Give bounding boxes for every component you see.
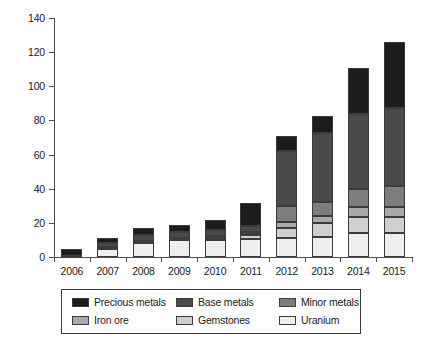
bar-2006 bbox=[61, 18, 82, 257]
bar-2009 bbox=[169, 18, 190, 257]
y-axis-tick-label: 80 bbox=[3, 115, 45, 125]
bar-segment-minor-metals bbox=[133, 241, 154, 243]
x-axis-tick bbox=[161, 257, 162, 262]
bar-segment-gemstones bbox=[384, 217, 405, 233]
y-axis-tick-label: 20 bbox=[3, 218, 45, 228]
bar-segment-gemstones bbox=[312, 223, 333, 237]
bar-segment-uranium bbox=[240, 239, 261, 257]
bar-segment-uranium bbox=[169, 240, 190, 257]
y-axis-tick bbox=[49, 155, 54, 156]
bar-segment-precious-metals bbox=[240, 203, 261, 226]
bar-segment-base-metals bbox=[169, 232, 190, 237]
legend: Precious metalsBase metalsMinor metalsIr… bbox=[61, 289, 361, 334]
bar-segment-base-metals bbox=[348, 114, 369, 189]
bar-segment-precious-metals bbox=[133, 228, 154, 235]
y-axis-tick bbox=[49, 120, 54, 121]
bar-segment-precious-metals bbox=[276, 136, 297, 151]
y-axis-tick bbox=[49, 189, 54, 190]
bar-segment-uranium bbox=[61, 256, 82, 258]
legend-item-label: Base metals bbox=[198, 297, 254, 308]
bar-segment-minor-metals bbox=[384, 186, 405, 207]
bar-segment-precious-metals bbox=[169, 225, 190, 233]
bar-segment-precious-metals bbox=[61, 249, 82, 256]
bar-segment-precious-metals bbox=[312, 116, 333, 133]
y-axis-tick-label: 60 bbox=[3, 150, 45, 160]
bar-segment-minor-metals bbox=[169, 238, 190, 240]
bar-segment-minor-metals bbox=[205, 236, 226, 238]
bar-segment-minor-metals bbox=[312, 202, 333, 217]
x-axis-tick-label: 2010 bbox=[197, 265, 233, 277]
y-axis-line bbox=[54, 18, 55, 257]
x-axis-tick-label: 2012 bbox=[269, 265, 305, 277]
bar-segment-iron-ore bbox=[205, 238, 226, 240]
bar-segment-uranium bbox=[205, 239, 226, 257]
legend-swatch-icon bbox=[279, 316, 296, 325]
bar-2007 bbox=[97, 18, 118, 257]
bar-segment-uranium bbox=[133, 243, 154, 257]
bar-segment-iron-ore bbox=[312, 216, 333, 223]
bar-segment-gemstones bbox=[240, 235, 261, 239]
x-axis-tick bbox=[269, 257, 270, 262]
x-axis-tick bbox=[54, 257, 55, 262]
bar-segment-uranium bbox=[348, 233, 369, 257]
legend-item-label: Precious metals bbox=[94, 297, 166, 308]
x-axis-tick bbox=[197, 257, 198, 262]
bar-segment-precious-metals bbox=[384, 42, 405, 109]
legend-item-label: Minor metals bbox=[301, 297, 359, 308]
bar-segment-iron-ore bbox=[348, 207, 369, 216]
bar-2011 bbox=[240, 18, 261, 257]
legend-swatch-icon bbox=[176, 298, 193, 307]
bar-2012 bbox=[276, 18, 297, 257]
x-axis-tick bbox=[412, 257, 413, 262]
x-axis-tick bbox=[305, 257, 306, 262]
y-axis-tick-label: 140 bbox=[3, 13, 45, 23]
y-axis-tick bbox=[49, 52, 54, 53]
legend-swatch-icon bbox=[72, 316, 89, 325]
x-axis-tick-label: 2007 bbox=[90, 265, 126, 277]
bar-segment-base-metals bbox=[97, 243, 118, 247]
y-axis-tick-label: 0 bbox=[3, 252, 45, 262]
bar-2010 bbox=[205, 18, 226, 257]
legend-item-label: Gemstones bbox=[198, 315, 250, 326]
y-axis-tick bbox=[49, 86, 54, 87]
legend-item-minor-metals[interactable]: Minor metals bbox=[279, 297, 372, 308]
legend-item-precious-metals[interactable]: Precious metals bbox=[72, 297, 176, 308]
bar-2013 bbox=[312, 18, 333, 257]
legend-item-iron-ore[interactable]: Iron ore bbox=[72, 315, 176, 326]
bar-segment-iron-ore bbox=[276, 222, 297, 228]
legend-item-label: Uranium bbox=[301, 315, 339, 326]
bar-segment-base-metals bbox=[276, 151, 297, 206]
bar-segment-base-metals bbox=[384, 108, 405, 186]
legend-swatch-icon bbox=[176, 316, 193, 325]
x-axis-tick-label: 2011 bbox=[233, 265, 269, 277]
bar-segment-minor-metals bbox=[97, 247, 118, 249]
legend-item-uranium[interactable]: Uranium bbox=[279, 315, 372, 326]
plot-area: 020406080100120140 200620072008200920102… bbox=[0, 0, 422, 285]
bar-2008 bbox=[133, 18, 154, 257]
bar-segment-uranium bbox=[312, 237, 333, 257]
bar-segment-iron-ore bbox=[240, 233, 261, 235]
bar-segment-base-metals bbox=[133, 235, 154, 241]
x-axis-tick-label: 2006 bbox=[54, 265, 90, 277]
legend-item-gemstones[interactable]: Gemstones bbox=[176, 315, 279, 326]
bar-segment-base-metals bbox=[312, 133, 333, 201]
y-axis-tick bbox=[49, 223, 54, 224]
x-axis-tick bbox=[233, 257, 234, 262]
bar-segment-precious-metals bbox=[205, 220, 226, 230]
bar-segment-gemstones bbox=[276, 228, 297, 237]
bar-segment-iron-ore bbox=[384, 207, 405, 216]
bar-segment-minor-metals bbox=[348, 189, 369, 208]
bar-segment-precious-metals bbox=[348, 68, 369, 113]
bar-segment-uranium bbox=[384, 233, 405, 257]
bar-segment-minor-metals bbox=[240, 232, 261, 234]
bar-segment-gemstones bbox=[348, 217, 369, 233]
legend-swatch-icon bbox=[279, 298, 296, 307]
stacked-bar-chart: 020406080100120140 200620072008200920102… bbox=[0, 0, 422, 348]
legend-item-label: Iron ore bbox=[94, 315, 129, 326]
x-axis-tick bbox=[90, 257, 91, 262]
x-axis-tick-label: 2008 bbox=[126, 265, 162, 277]
y-axis-tick bbox=[49, 18, 54, 19]
bar-2014 bbox=[348, 18, 369, 257]
legend-item-base-metals[interactable]: Base metals bbox=[176, 297, 279, 308]
x-axis-tick-label: 2014 bbox=[340, 265, 376, 277]
